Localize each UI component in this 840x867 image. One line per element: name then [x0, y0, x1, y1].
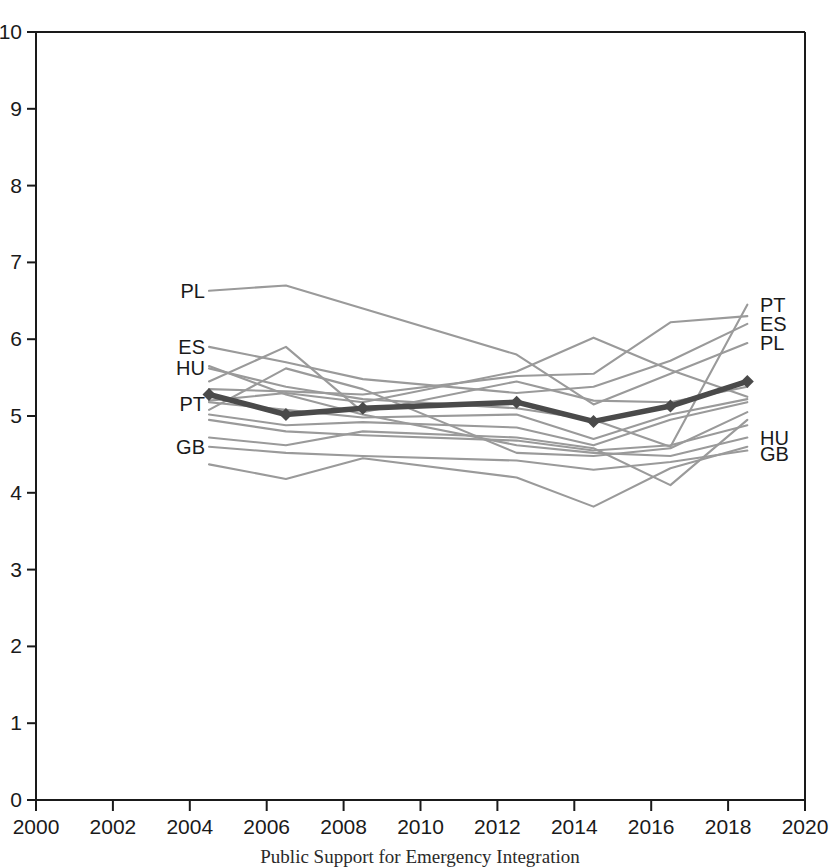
svg-text:PT: PT: [179, 393, 205, 415]
svg-text:7: 7: [10, 250, 22, 273]
svg-text:HU: HU: [176, 357, 205, 379]
svg-text:5: 5: [10, 404, 22, 427]
svg-text:9: 9: [10, 97, 22, 120]
svg-text:2018: 2018: [705, 815, 752, 838]
svg-text:2016: 2016: [628, 815, 675, 838]
svg-text:2006: 2006: [243, 815, 290, 838]
svg-text:4: 4: [10, 481, 22, 504]
svg-text:0: 0: [10, 788, 22, 811]
figure-caption: Public Support for Emergency Integration: [0, 846, 840, 867]
svg-text:10: 10: [0, 20, 22, 43]
svg-text:2010: 2010: [397, 815, 444, 838]
svg-text:2002: 2002: [90, 815, 137, 838]
chart-page: 012345678910 200020022004200620082010201…: [0, 0, 840, 867]
svg-text:2004: 2004: [166, 815, 213, 838]
svg-text:2008: 2008: [320, 815, 367, 838]
svg-text:GB: GB: [176, 436, 205, 458]
svg-text:2012: 2012: [474, 815, 521, 838]
series-lines: [209, 285, 747, 506]
svg-text:PL: PL: [181, 280, 205, 302]
svg-text:2020: 2020: [782, 815, 829, 838]
svg-text:PL: PL: [760, 332, 784, 354]
svg-text:1: 1: [10, 711, 22, 734]
svg-text:8: 8: [10, 174, 22, 197]
line-chart: 012345678910 200020022004200620082010201…: [0, 0, 840, 867]
svg-text:2: 2: [10, 634, 22, 657]
y-axis-ticks: 012345678910: [0, 20, 36, 811]
svg-text:2014: 2014: [551, 815, 598, 838]
svg-text:ES: ES: [178, 336, 205, 358]
svg-text:2000: 2000: [13, 815, 60, 838]
svg-text:3: 3: [10, 558, 22, 581]
x-axis-ticks: 2000200220042006200820102012201420162018…: [13, 800, 829, 838]
svg-text:GB: GB: [760, 443, 789, 465]
svg-text:6: 6: [10, 327, 22, 350]
